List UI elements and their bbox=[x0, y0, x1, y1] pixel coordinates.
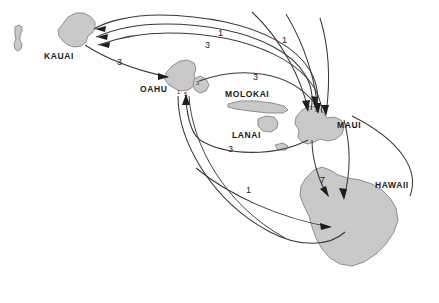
island-molokai bbox=[228, 101, 288, 113]
island-label-maui: MAUI bbox=[337, 121, 361, 130]
island-label-oahu: OAHU bbox=[140, 85, 167, 94]
flow-label-maui-side-marker: 3 bbox=[196, 81, 199, 87]
map-canvas bbox=[0, 0, 439, 303]
island-oahu bbox=[165, 60, 196, 91]
flow-label-oahu-to-hawaii: 1 bbox=[246, 186, 251, 195]
flow-label-oahu-inbound-marker-b: 5 bbox=[184, 92, 187, 98]
island-kauai bbox=[58, 13, 95, 47]
flow-label-maui-to-kauai-inner: 1 bbox=[218, 29, 223, 38]
flow-label-oahu-to-maui-upper: 3 bbox=[253, 73, 258, 82]
island-label-hawaii: HAWAII bbox=[375, 181, 409, 190]
island-label-molokai: MOLOKAI bbox=[225, 90, 269, 99]
flow-label-hawaii-to-kauai: 3 bbox=[205, 41, 210, 50]
flow-label-maui-to-kauai-outer: 1 bbox=[282, 36, 287, 45]
flow-label-oahu-inbound-marker-a: 1 bbox=[177, 90, 180, 96]
island-label-lanai: LANAI bbox=[232, 131, 261, 140]
flow-label-kauai-to-oahu: 3 bbox=[117, 58, 122, 67]
flow-arc-to-maui-c bbox=[320, 18, 328, 114]
flow-arc-maui-to-kauai-outer bbox=[94, 15, 318, 112]
flow-label-maui-to-oahu-lower: 3 bbox=[228, 145, 233, 154]
island-niihau bbox=[14, 25, 22, 51]
flow-arc-kauai-to-oahu bbox=[85, 45, 168, 77]
flow-label-maui-to-hawaii: 7 bbox=[320, 176, 325, 185]
island-lanai bbox=[258, 116, 278, 132]
hawaiian-islands-migration-map: KAUAI OAHU MOLOKAI LANAI MAUI HAWAII 1 1… bbox=[0, 0, 439, 303]
island-label-kauai: KAUAI bbox=[44, 52, 74, 61]
